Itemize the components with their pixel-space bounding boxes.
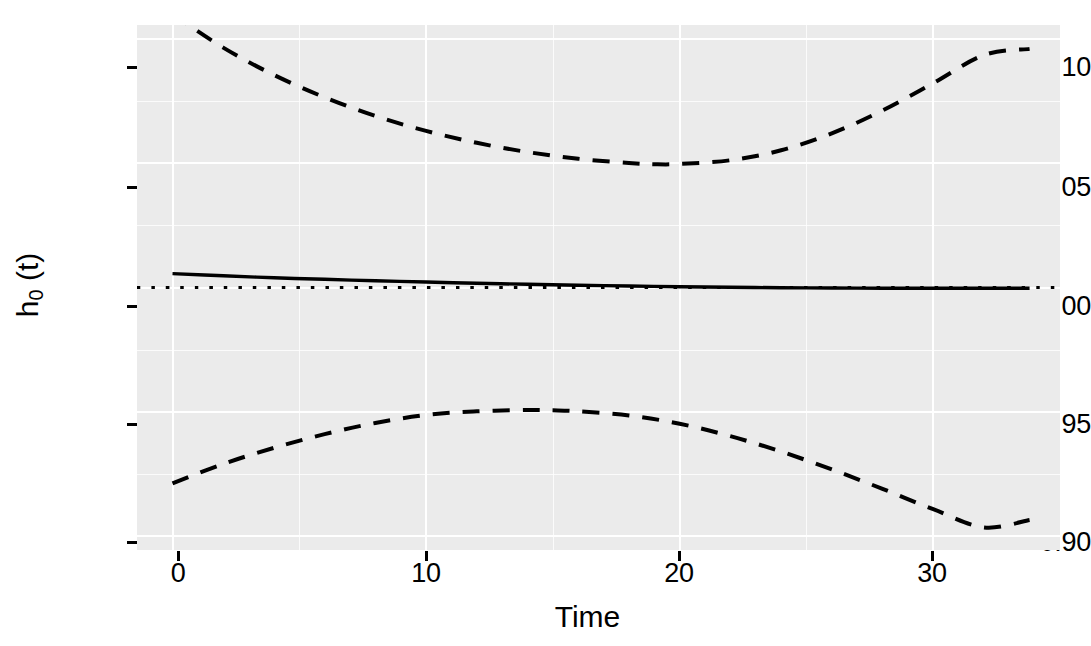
series-upper-confidence-band <box>173 25 1030 164</box>
series-layer <box>137 25 1060 550</box>
y-tick-mark-110 <box>127 66 137 69</box>
y-tick-mark-100 <box>127 305 137 308</box>
x-axis-title: Time <box>0 600 1091 634</box>
y-axis-title-base: h <box>11 301 44 318</box>
y-tick-mark-090 <box>127 541 137 544</box>
y-axis-title: h0 (t) <box>11 195 45 375</box>
series-lower-confidence-band <box>173 410 1030 528</box>
y-tick-mark-105 <box>127 186 137 189</box>
x-tick-label-0: 0 <box>133 560 223 587</box>
y-axis-title-arg: (t) <box>11 253 44 290</box>
y-axis-title-subscript: 0 <box>25 289 47 300</box>
x-axis-title-text: Time <box>555 600 621 633</box>
x-tick-label-10: 10 <box>381 560 471 587</box>
plot-panel <box>137 25 1060 550</box>
y-tick-mark-095 <box>127 423 137 426</box>
x-tick-label-30: 30 <box>887 560 977 587</box>
chart-figure: h0 (t) 1.10 0.95 1.00 1.05 0.90 0 10 20 … <box>0 0 1091 646</box>
x-tick-label-20: 20 <box>634 560 724 587</box>
